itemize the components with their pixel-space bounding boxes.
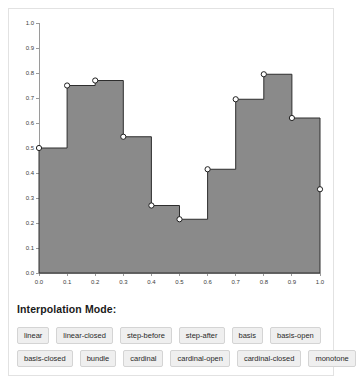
y-tick-label: 0.9 — [26, 45, 35, 51]
x-tick-label: 0.7 — [232, 279, 241, 285]
y-tick-label: 0.1 — [26, 245, 35, 251]
data-point-marker — [289, 115, 294, 120]
mode-button-row-2: basis-closed bundle cardinal cardinal-op… — [17, 350, 325, 367]
mode-button-linear-closed[interactable]: linear-closed — [56, 327, 113, 344]
data-point-marker — [317, 187, 322, 192]
mode-button-bundle[interactable]: bundle — [80, 350, 117, 367]
data-point-marker — [36, 145, 41, 150]
mode-button-monotone[interactable]: monotone — [308, 350, 355, 367]
data-point-marker — [65, 83, 70, 88]
mode-button-cardinal-open[interactable]: cardinal-open — [170, 350, 229, 367]
x-tick-label: 0.2 — [91, 279, 100, 285]
y-tick-label: 0.3 — [26, 195, 35, 201]
data-point-marker — [121, 134, 126, 139]
mode-button-row-1: linear linear-closed step-before step-af… — [17, 327, 325, 344]
x-tick-label: 0.1 — [63, 279, 72, 285]
panel-border-right — [333, 8, 334, 376]
data-point-marker — [205, 167, 210, 172]
mode-button-linear[interactable]: linear — [17, 327, 49, 344]
mode-button-basis-open[interactable]: basis-open — [270, 327, 321, 344]
y-tick-label: 0.2 — [26, 220, 35, 226]
data-point-marker — [93, 78, 98, 83]
x-tick-label: 0.6 — [203, 279, 212, 285]
x-tick-label: 0.8 — [260, 279, 269, 285]
y-tick-label: 0.6 — [26, 120, 35, 126]
data-point-marker — [149, 203, 154, 208]
controls-title: Interpolation Mode: — [17, 303, 325, 315]
data-point-marker — [177, 217, 182, 222]
mode-button-cardinal-closed[interactable]: cardinal-closed — [237, 350, 301, 367]
y-tick-label: 0.5 — [26, 145, 35, 151]
y-tick-label: 0.8 — [26, 70, 35, 76]
mode-button-basis-closed[interactable]: basis-closed — [17, 350, 73, 367]
y-tick-label: 0.4 — [26, 170, 35, 176]
panel-border-bottom — [8, 375, 334, 376]
mode-button-basis[interactable]: basis — [232, 327, 264, 344]
area-series-path — [39, 74, 320, 273]
data-point-marker — [233, 97, 238, 102]
interpolation-chart-panel: 0.00.10.20.30.40.50.60.70.80.91.00.00.10… — [9, 9, 333, 295]
interpolation-mode-controls: Interpolation Mode: linear linear-closed… — [9, 296, 333, 375]
mode-button-cardinal[interactable]: cardinal — [123, 350, 163, 367]
mode-button-step-before[interactable]: step-before — [120, 327, 172, 344]
x-tick-label: 0.3 — [119, 279, 128, 285]
interpolation-area-chart: 0.00.10.20.30.40.50.60.70.80.91.00.00.10… — [9, 9, 333, 295]
x-tick-label: 1.0 — [316, 279, 325, 285]
x-tick-label: 0.5 — [175, 279, 184, 285]
x-tick-label: 0.4 — [147, 279, 156, 285]
y-tick-label: 0.7 — [26, 95, 35, 101]
y-tick-label: 1.0 — [26, 20, 35, 26]
y-tick-label: 0.0 — [26, 270, 35, 276]
data-point-marker — [261, 72, 266, 77]
mode-button-step-after[interactable]: step-after — [179, 327, 225, 344]
x-tick-label: 0.9 — [288, 279, 297, 285]
x-tick-label: 0.0 — [35, 279, 44, 285]
